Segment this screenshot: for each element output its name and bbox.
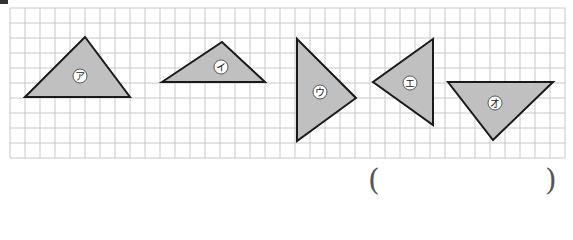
triangle-label: イ xyxy=(216,62,226,73)
answer-open-paren: ( xyxy=(368,162,380,197)
answer-close-paren: ) xyxy=(545,162,557,197)
triangle-label: オ xyxy=(490,98,500,109)
triangle-label: ア xyxy=(75,71,85,82)
triangle-1 xyxy=(25,37,130,97)
triangle-5 xyxy=(448,82,553,140)
triangle-label: エ xyxy=(405,78,415,89)
answer-field[interactable] xyxy=(390,165,540,197)
triangle-label: ウ xyxy=(315,87,325,98)
